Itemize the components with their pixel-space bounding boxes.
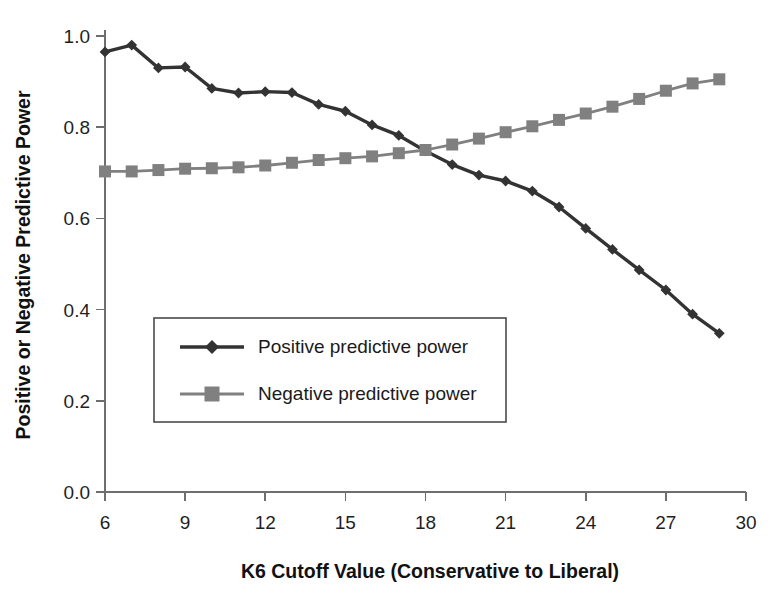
data-point-marker [366,150,378,162]
data-point-marker [393,147,405,159]
data-point-marker [339,152,351,164]
legend-label: Positive predictive power [258,336,469,357]
x-tick-label: 6 [100,512,111,533]
data-point-marker [233,88,244,99]
legend-sample-marker [205,387,220,402]
data-point-marker [500,126,512,138]
data-point-marker [500,176,511,187]
data-point-marker [633,93,645,105]
y-tick-label: 0.0 [64,482,90,503]
y-tick-label: 0.4 [64,300,91,321]
data-point-marker [553,114,565,126]
data-point-marker [152,164,164,176]
data-point-marker [446,139,458,151]
x-axis-title: K6 Cutoff Value (Conservative to Liberal… [241,560,619,582]
data-point-marker [287,87,298,98]
data-point-marker [687,77,699,89]
predictive-power-line-chart: 0.00.20.40.60.81.0 6912151821242730 Posi… [0,0,779,600]
x-tick-label: 27 [655,512,676,533]
data-point-marker [474,170,485,181]
data-point-marker [100,47,111,58]
legend-label: Negative predictive power [258,383,477,404]
data-point-marker [606,101,618,113]
series-negative-predictive-power [99,73,725,177]
data-point-marker [580,108,592,120]
x-axis-ticks: 6912151821242730 [100,492,757,533]
y-tick-label: 0.2 [64,391,90,412]
data-point-marker [313,99,324,110]
x-tick-label: 12 [255,512,276,533]
chart-container: 0.00.20.40.60.81.0 6912151821242730 Posi… [0,0,779,600]
x-tick-label: 9 [180,512,191,533]
y-tick-label: 1.0 [64,26,90,47]
data-point-marker [233,161,245,173]
y-axis-ticks: 0.00.20.40.60.81.0 [64,26,105,503]
x-tick-label: 30 [735,512,756,533]
data-point-marker [286,157,298,169]
x-tick-label: 24 [575,512,597,533]
data-point-marker [420,144,432,156]
y-tick-label: 0.8 [64,117,90,138]
y-axis-title: Positive or Negative Predictive Power [12,90,34,439]
x-axis: 6912151821242730 [100,492,757,533]
y-axis: 0.00.20.40.60.81.0 [64,26,105,503]
data-point-marker [526,120,538,132]
data-point-marker [660,85,672,97]
data-point-marker [126,165,138,177]
chart-series-group [99,40,725,339]
data-point-marker [179,163,191,175]
x-tick-label: 15 [335,512,356,533]
chart-legend: Positive predictive powerNegative predic… [154,318,506,422]
legend-border [154,318,506,422]
data-point-marker [473,133,485,145]
data-point-marker [259,160,271,172]
data-point-marker [260,86,271,97]
data-point-marker [313,154,325,166]
series-line [105,45,719,333]
data-point-marker [99,165,111,177]
series-positive-predictive-power [100,40,725,339]
x-tick-label: 18 [415,512,436,533]
data-point-marker [713,73,725,85]
data-point-marker [206,162,218,174]
y-tick-label: 0.6 [64,208,90,229]
series-line [105,79,719,171]
x-tick-label: 21 [495,512,516,533]
